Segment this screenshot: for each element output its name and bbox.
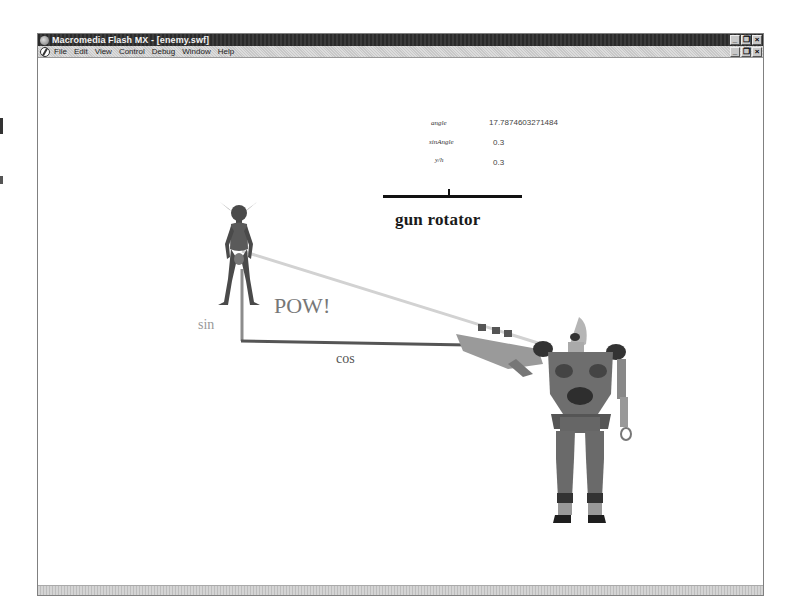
menu-control[interactable]: Control <box>119 46 145 58</box>
close-button[interactable]: × <box>752 35 762 45</box>
menu-file[interactable]: File <box>54 46 67 58</box>
title-bar[interactable]: Macromedia Flash MX - [enemy.swf] _ ❐ × <box>38 34 763 46</box>
menu-help[interactable]: Help <box>218 46 234 58</box>
cos-label: cos <box>336 351 355 367</box>
restore-button[interactable]: ❐ <box>741 35 751 45</box>
flash-app-icon[interactable] <box>40 36 49 45</box>
doc-restore-button[interactable]: ❐ <box>741 47 751 57</box>
doc-close-button[interactable]: × <box>752 47 762 57</box>
flash-player-window: Macromedia Flash MX - [enemy.swf] _ ❐ × … <box>37 33 764 596</box>
menu-edit[interactable]: Edit <box>74 46 88 58</box>
menu-bar: File Edit View Control Debug Window Help… <box>38 46 763 58</box>
page-edge-mark <box>0 118 3 134</box>
page-edge-mark <box>0 176 3 184</box>
document-icon[interactable] <box>40 47 50 57</box>
pow-text: POW! <box>274 293 330 319</box>
document-controls: _ ❐ × <box>730 47 762 57</box>
menu-window[interactable]: Window <box>182 46 210 58</box>
menu-debug[interactable]: Debug <box>152 46 176 58</box>
cos-line <box>241 341 468 345</box>
minimize-button[interactable]: _ <box>730 35 740 45</box>
flash-stage[interactable]: angle 17.7874603271484 sinAngle 0.3 y/h … <box>38 59 763 586</box>
window-title: Macromedia Flash MX - [enemy.swf] <box>52 34 209 46</box>
doc-minimize-button[interactable]: _ <box>730 47 740 57</box>
sin-label: sin <box>198 317 214 333</box>
robot-player-figure <box>456 317 631 523</box>
window-controls: _ ❐ × <box>730 35 762 45</box>
status-bar <box>38 585 763 595</box>
scene-graphics <box>38 59 765 586</box>
menu-view[interactable]: View <box>95 46 112 58</box>
